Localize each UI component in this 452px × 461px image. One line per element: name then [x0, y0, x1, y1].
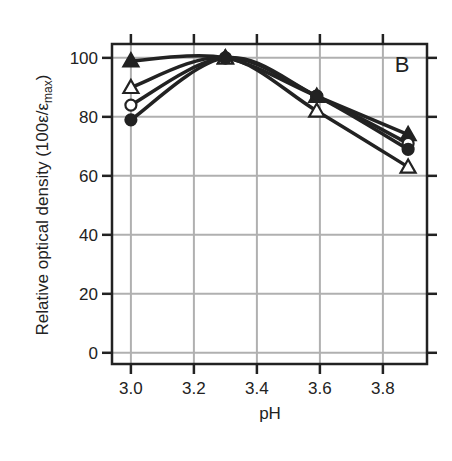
y-axis-title: Relative optical density (100ε/εmax) [33, 75, 55, 336]
y-axis-title-close: ) [33, 75, 52, 81]
chart: 020406080100 3.03.23.43.63.8 B pH Relati… [0, 0, 452, 461]
x-tick-label: 3.4 [245, 379, 269, 398]
y-tick-label: 20 [79, 285, 98, 304]
plot-frame [112, 44, 427, 364]
y-axis: 020406080100 [70, 49, 437, 363]
x-axis-title: pH [259, 404, 281, 423]
circle-marker [403, 144, 414, 155]
panel-label: B [395, 52, 410, 77]
x-tick-label: 3.8 [371, 379, 395, 398]
circle-marker [220, 52, 231, 63]
circle-marker [311, 91, 322, 102]
y-tick-label: 0 [89, 344, 98, 363]
y-tick-label: 40 [79, 226, 98, 245]
y-axis-title-main: Relative optical density (100ε/ε [33, 103, 52, 336]
x-tick-label: 3.6 [308, 379, 332, 398]
circle-marker [125, 114, 136, 125]
circle-marker [125, 100, 136, 111]
y-tick-label: 100 [70, 49, 98, 68]
grid-lines [112, 44, 427, 364]
y-axis-title-sub: max [41, 80, 55, 103]
triangle-marker [309, 103, 324, 116]
data-series [123, 50, 415, 172]
triangle-marker [401, 159, 416, 172]
x-tick-label: 3.0 [119, 379, 143, 398]
x-tick-label: 3.2 [182, 379, 206, 398]
y-tick-label: 60 [79, 167, 98, 186]
y-tick-label: 80 [79, 108, 98, 127]
